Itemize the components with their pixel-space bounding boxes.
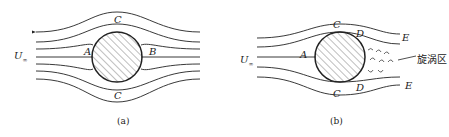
label-c-bottom-a: C — [114, 90, 122, 101]
label-vortex-region: 旋涡区 — [417, 51, 447, 66]
flow-diagram — [0, 0, 449, 137]
label-e-bottom-b: E — [405, 80, 412, 91]
label-d-bottom-b: D — [356, 82, 364, 93]
label-b-a: B — [149, 46, 156, 57]
cylinder-a — [92, 32, 142, 82]
caption-b: (b) — [330, 116, 343, 126]
label-u-b: U∞ — [240, 54, 253, 67]
vortex-pointer — [398, 56, 416, 60]
label-a-a: A — [84, 46, 91, 57]
label-c-top-a: C — [114, 14, 122, 25]
label-a-b: A — [300, 49, 307, 60]
label-e-top-b: E — [402, 32, 409, 43]
caption-a: (a) — [117, 116, 129, 126]
cylinder-b — [315, 32, 365, 82]
label-u-a: U∞ — [14, 50, 27, 63]
label-c-top-b: C — [333, 19, 341, 30]
vortex-region — [368, 49, 393, 73]
label-d-top-b: D — [356, 28, 364, 39]
label-c-bottom-b: C — [333, 88, 341, 99]
